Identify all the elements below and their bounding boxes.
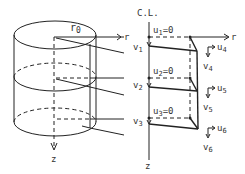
mesh-z-label: z (145, 161, 150, 171)
node-dot (148, 77, 151, 80)
constraint-u2: u2=0 (153, 66, 173, 78)
node-dot (189, 36, 192, 39)
node-label-v6: v6 (203, 142, 213, 154)
node-label-v2: v2 (133, 80, 143, 92)
node-label-u6: u6 (217, 123, 227, 135)
cylinder-top-ellipse (14, 21, 96, 49)
axisymmetric-cylinder-diagram: r0 z C.L. r z r (0, 0, 245, 174)
cylinder-bottom-ellipse-front (14, 122, 96, 136)
deformed-bottom-line (149, 124, 198, 129)
constraint-u1: u1=0 (153, 25, 173, 37)
cylinder-bottom-ellipse-back (14, 108, 96, 122)
cylinder-middle-ellipse-back (14, 63, 96, 77)
leader-line-3 (90, 128, 124, 135)
cylinder-middle-ellipse-front (14, 77, 96, 91)
node-dot (189, 117, 192, 120)
displacement-link-2 (190, 78, 197, 91)
node-label-u5: u5 (217, 83, 227, 95)
cylinder-z-label: z (51, 154, 56, 164)
node-label-u4: u4 (217, 42, 227, 54)
section-bottom-edge (82, 126, 90, 128)
node-dot (148, 117, 151, 120)
node-dot (189, 77, 192, 80)
r-axis-label-right: r (231, 32, 237, 42)
uv-arrow-icon-4 (206, 45, 215, 57)
displacement-link-3 (190, 118, 198, 129)
node-label-v4: v4 (203, 61, 213, 73)
constraint-u3: u3=0 (153, 106, 173, 118)
uv-arrow-icon-6 (206, 126, 215, 138)
node-dot (148, 36, 151, 39)
mesh: C.L. r z r (117, 8, 237, 171)
node-label-v1: v1 (133, 42, 143, 54)
centerline-label: C.L. (137, 8, 159, 18)
uv-arrow-icon-5 (206, 86, 215, 98)
r-axis-label-left: r (124, 32, 130, 42)
node-label-v5: v5 (203, 102, 213, 114)
node-label-v3: v3 (133, 116, 143, 128)
displacement-link-1 (190, 37, 197, 51)
